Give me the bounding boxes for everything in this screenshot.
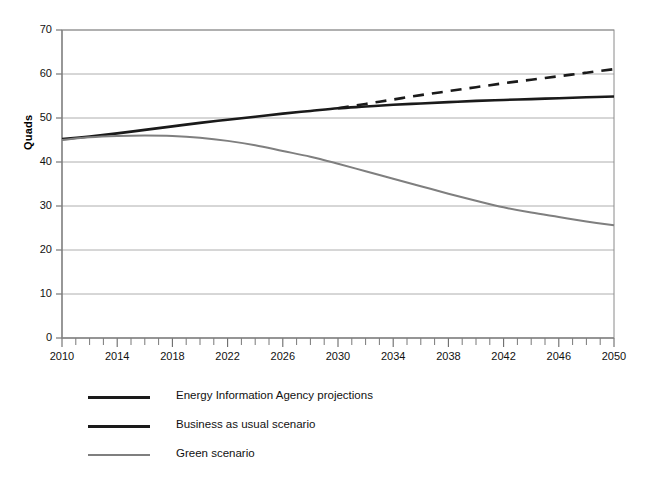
gridlines: [62, 30, 614, 338]
y-axis-ticks: [56, 30, 62, 338]
legend-swatch-icon: [88, 454, 150, 456]
legend-swatch-icon: [88, 425, 150, 428]
axis-lines: [62, 30, 614, 338]
legend-item: Business as usual scenario: [88, 417, 508, 446]
chart-legend: Energy Information Agency projectionsBus…: [88, 388, 508, 475]
legend-label: Green scenario: [176, 447, 255, 459]
series-line: [338, 69, 614, 108]
legend-label: Energy Information Agency projections: [176, 389, 373, 401]
legend-item: Energy Information Agency projections: [88, 388, 508, 417]
legend-item: Green scenario: [88, 446, 508, 475]
x-axis-ticks: [62, 338, 614, 347]
line-chart: Quads 010203040506070 201020142018202220…: [0, 0, 664, 479]
series-line: [62, 136, 614, 226]
plot-frame: [62, 30, 614, 338]
legend-swatch-icon: [88, 396, 150, 399]
legend-label: Business as usual scenario: [176, 418, 315, 430]
data-series-layer: [62, 69, 614, 225]
plot-border: [62, 30, 614, 338]
